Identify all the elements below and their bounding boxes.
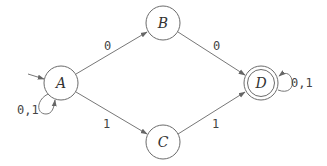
state-b: B <box>146 6 180 40</box>
label-a-c: 1 <box>103 117 110 131</box>
automaton-diagram: A B C D 0,1 0 1 0 1 0,1 <box>0 0 327 166</box>
label-b-d: 0 <box>213 39 220 53</box>
state-d-label: D <box>254 75 266 91</box>
state-b-label: B <box>157 15 168 31</box>
edge-a-to-b <box>76 32 147 74</box>
edge-b-to-d <box>178 32 245 75</box>
label-a-b: 0 <box>104 39 111 53</box>
edge-a-to-c <box>76 92 147 134</box>
state-d-accepting: D <box>244 66 278 100</box>
state-a-label: A <box>54 75 66 91</box>
state-c: C <box>146 125 180 159</box>
label-d-self: 0,1 <box>291 76 313 90</box>
label-c-d: 1 <box>212 117 219 131</box>
state-a: A <box>44 66 78 100</box>
label-a-self: 0,1 <box>17 103 39 117</box>
initial-arrow <box>28 74 44 79</box>
state-c-label: C <box>158 134 169 150</box>
